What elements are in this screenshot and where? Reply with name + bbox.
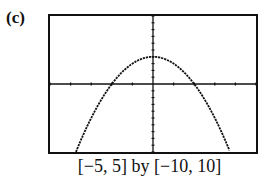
graph-window [48, 14, 258, 154]
figure-label: (c) [6, 8, 25, 28]
window-caption: [−5, 5] by [−10, 10] [0, 156, 259, 177]
